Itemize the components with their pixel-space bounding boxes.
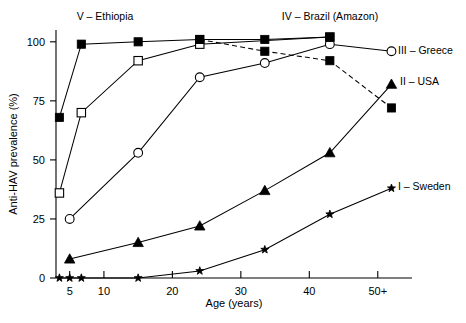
series-line-5	[59, 37, 329, 117]
x-tick-label-40: 40	[303, 285, 315, 297]
y-axis: 0255075100	[27, 30, 56, 284]
x-axis: 51020304050+	[56, 271, 412, 297]
data-point-1-5	[386, 79, 396, 88]
data-point-0-1	[66, 274, 74, 282]
series-lines-group	[59, 37, 391, 278]
data-point-3-2	[134, 57, 142, 65]
x-axis-title: Age (years)	[206, 297, 263, 309]
y-axis-ticks: 0255075100	[27, 36, 56, 284]
data-point-0-5	[261, 245, 269, 253]
brazil-label: IV – Brazil (Amazon)	[282, 10, 378, 22]
y-tick-label-75: 75	[33, 95, 45, 107]
x-tick-label-50+: 50+	[368, 285, 387, 297]
data-point-2-1	[134, 148, 143, 157]
data-point-5-3	[196, 35, 204, 43]
sweden-label: I – Sweden	[398, 180, 451, 192]
data-point-0-7	[387, 184, 395, 192]
y-axis-title: Anti-HAV prevalence (%)	[7, 93, 19, 214]
y-tick-label-50: 50	[33, 154, 45, 166]
y-tick-label-100: 100	[27, 36, 45, 48]
series-line-3	[59, 37, 329, 193]
data-point-5-0	[55, 113, 63, 121]
x-tick-label-5: 5	[67, 285, 73, 297]
anti-hav-prevalence-by-age-chart: 0255075100 51020304050+ Age (years) Anti…	[0, 0, 466, 323]
x-tick-label-10: 10	[98, 285, 110, 297]
data-point-4-3	[387, 104, 395, 112]
y-tick-label-0: 0	[39, 272, 45, 284]
y-tick-label-25: 25	[33, 213, 45, 225]
series-line-0	[59, 188, 391, 278]
chart-container: 0255075100 51020304050+ Age (years) Anti…	[0, 0, 466, 323]
greece-label: III – Greece	[398, 44, 453, 56]
data-point-0-0	[55, 274, 63, 282]
data-point-1-3	[260, 185, 270, 194]
data-point-2-5	[387, 47, 396, 56]
data-point-1-2	[195, 221, 205, 230]
data-point-2-2	[195, 73, 204, 82]
data-point-5-2	[134, 38, 142, 46]
x-tick-label-30: 30	[235, 285, 247, 297]
data-point-0-4	[196, 267, 204, 275]
data-point-4-1	[261, 47, 269, 55]
data-point-5-1	[77, 40, 85, 48]
data-point-4-2	[326, 57, 334, 65]
x-axis-ticks: 51020304050+	[67, 271, 387, 297]
x-tick-label-20: 20	[166, 285, 178, 297]
series-line-4	[200, 39, 392, 107]
series-markers-group	[55, 33, 396, 282]
data-point-3-1	[77, 108, 85, 116]
data-point-3-0	[55, 189, 63, 197]
data-point-0-3	[134, 274, 142, 282]
data-point-0-2	[77, 274, 85, 282]
usa-label: II – USA	[400, 75, 439, 87]
data-point-5-4	[261, 35, 269, 43]
data-point-2-3	[260, 59, 269, 68]
data-point-2-0	[65, 215, 74, 224]
data-point-5-5	[326, 33, 334, 41]
data-point-0-6	[326, 210, 334, 218]
ethiopia-label: V – Ethiopia	[77, 10, 134, 22]
